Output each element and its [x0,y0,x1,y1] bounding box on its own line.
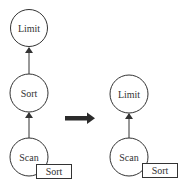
after-plan: Limit Scan Sort [110,75,178,178]
after-scan-sort-annotation: Sort [143,164,178,178]
query-plan-diagram: Limit Sort Scan Sort Limit Scan [0,0,183,189]
before-sort-label: Sort [21,88,38,99]
before-scan-label: Scan [19,152,38,163]
before-limit-node: Limit [11,10,48,47]
after-limit-label: Limit [118,89,140,100]
before-limit-label: Limit [18,23,40,34]
before-sort-node: Sort [10,74,48,112]
before-plan: Limit Sort Scan Sort [10,10,72,179]
after-scan-label: Scan [119,152,138,163]
before-scan-sort-annotation: Sort [37,165,72,179]
after-scan-annotation-label: Sort [152,165,169,176]
before-scan-annotation-label: Sort [46,166,63,177]
transform-arrow-icon [65,113,95,125]
after-limit-node: Limit [110,75,148,113]
